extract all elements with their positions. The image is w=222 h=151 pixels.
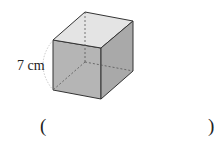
answer-close-paren: )	[208, 116, 214, 135]
edge-length-label: 7 cm	[17, 58, 45, 73]
cube-front-face	[53, 40, 101, 99]
answer-blank[interactable]	[55, 116, 205, 136]
answer-open-paren: (	[40, 116, 46, 135]
